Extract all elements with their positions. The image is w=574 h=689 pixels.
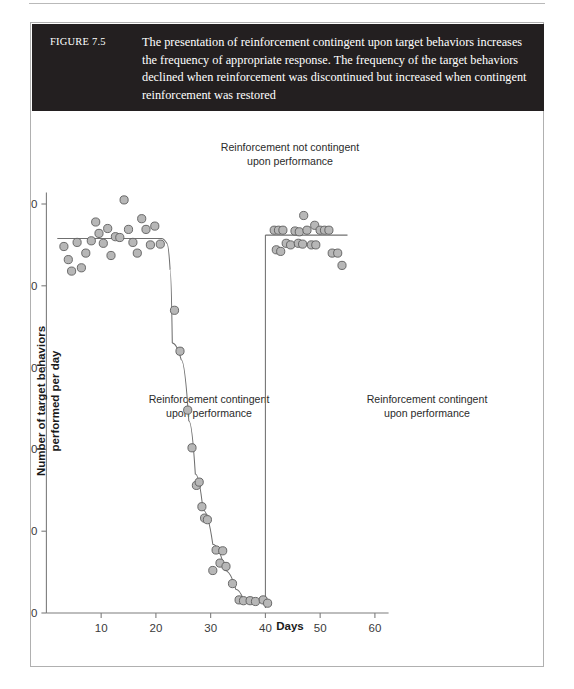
data-point: [300, 211, 308, 219]
figure-number: FIGURE 7.5: [50, 34, 142, 103]
data-point: [312, 241, 320, 249]
data-point: [95, 229, 103, 237]
annotation-left-line1: Reinforcement contingent: [149, 393, 270, 405]
data-point: [295, 228, 303, 236]
figure-page: FIGURE 7.5 The presentation of reinforce…: [0, 0, 574, 689]
data-point: [338, 261, 346, 269]
chart-plot-area: Reinforcement not contingent upon perfor…: [31, 111, 543, 667]
data-point: [303, 226, 311, 234]
data-point: [219, 547, 227, 555]
data-point: [334, 249, 342, 257]
data-point: [99, 239, 107, 247]
figure-container: FIGURE 7.5 The presentation of reinforce…: [30, 22, 544, 667]
data-point: [287, 241, 295, 249]
data-point: [188, 444, 196, 452]
x-axis-ticks: 102030405060: [95, 613, 382, 634]
figure-caption-text: The presentation of reinforcement contin…: [142, 34, 528, 103]
data-point: [222, 562, 230, 570]
data-point: [92, 218, 100, 226]
data-point: [104, 224, 112, 232]
annotation-top-line2: upon performance: [247, 155, 333, 167]
data-point: [299, 240, 307, 248]
data-point: [146, 241, 154, 249]
data-point: [279, 226, 287, 234]
data-point: [195, 478, 203, 486]
data-point: [142, 225, 150, 233]
x-axis-title: Days: [276, 620, 304, 632]
data-point: [116, 233, 124, 241]
data-point: [129, 238, 137, 246]
x-tick-label: 40: [259, 622, 272, 634]
annotation-left-line2: upon performance: [166, 407, 252, 419]
data-point: [209, 566, 217, 574]
data-point: [170, 306, 178, 314]
data-point: [87, 237, 95, 245]
annotation-top-line1: Reinforcement not contingent: [221, 141, 359, 153]
data-point: [325, 226, 333, 234]
y-axis-title: Number of target behaviorsperformed per …: [35, 326, 61, 476]
data-point: [156, 240, 164, 248]
y-tick-label: 50: [31, 198, 37, 210]
x-tick-label: 50: [314, 622, 327, 634]
figure-caption-band: FIGURE 7.5 The presentation of reinforce…: [32, 24, 544, 111]
scatter-chart: Reinforcement not contingent upon perfor…: [31, 111, 543, 667]
annotation-right-line1: Reinforcement contingent: [367, 393, 488, 405]
data-point: [120, 196, 128, 204]
y-tick-label: 10: [31, 525, 37, 537]
data-point: [151, 222, 159, 230]
data-point: [60, 242, 68, 250]
data-point: [251, 597, 259, 605]
annotation-right-line2: upon performance: [384, 407, 470, 419]
data-point: [77, 264, 85, 272]
x-tick-label: 20: [150, 622, 163, 634]
data-point: [176, 347, 184, 355]
data-point: [64, 256, 72, 264]
data-point: [68, 267, 76, 275]
data-point: [82, 249, 90, 257]
data-point: [277, 247, 285, 255]
data-point: [264, 599, 272, 607]
y-tick-label: 40: [31, 280, 37, 292]
x-tick-label: 30: [204, 622, 217, 634]
y-tick-label: 0: [31, 607, 37, 619]
page-top-rule: [29, 3, 545, 4]
data-point: [184, 406, 192, 414]
data-point: [198, 503, 206, 511]
data-point: [124, 225, 132, 233]
data-point: [228, 580, 236, 588]
data-point: [203, 516, 211, 524]
data-point: [107, 251, 115, 259]
data-point: [138, 215, 146, 223]
data-point: [133, 249, 141, 257]
data-point: [73, 238, 81, 246]
x-tick-label: 60: [369, 622, 382, 634]
x-tick-label: 10: [95, 622, 108, 634]
